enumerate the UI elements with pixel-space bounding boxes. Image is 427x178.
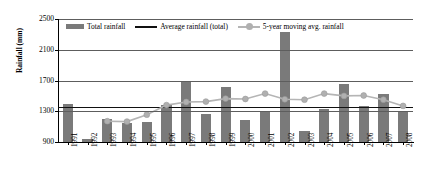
y-axis-tick — [55, 81, 59, 82]
x-axis-tick-label-1996: 1996 — [169, 133, 177, 147]
moving-average-marker — [144, 112, 150, 118]
y-axis-tick — [55, 142, 59, 143]
moving-average-marker — [341, 93, 347, 99]
moving-average-marker — [124, 119, 130, 125]
legend-label-moving-average: 5-year moving avg. rainfall — [263, 22, 344, 31]
marker-line-swatch-icon — [238, 26, 260, 28]
x-axis-tick-label-2008: 2008 — [406, 133, 414, 147]
x-axis-tick — [403, 142, 404, 145]
x-axis-tick-label-2006: 2006 — [367, 133, 375, 147]
moving-average-marker — [203, 99, 209, 105]
legend-label-total-rainfall: Total rainfall — [87, 22, 125, 31]
x-axis-tick — [186, 142, 187, 145]
legend-item-total-rainfall: Total rainfall — [66, 22, 125, 31]
moving-average-marker — [381, 97, 387, 103]
x-axis-tick-label-1999: 1999 — [229, 133, 237, 147]
moving-average-marker — [321, 91, 327, 97]
moving-average-marker — [302, 97, 308, 103]
x-axis-tick — [166, 142, 167, 145]
rainfall-chart: Rainfall (mm) Total rainfall Average rai… — [0, 0, 427, 178]
y-axis-tick — [55, 111, 59, 112]
x-axis-tick — [305, 142, 306, 145]
y-axis-tick-label: 1700 — [28, 77, 54, 85]
bar-swatch-icon — [66, 24, 84, 29]
moving-average-marker — [361, 93, 367, 99]
x-axis-tick-label-2005: 2005 — [347, 133, 355, 147]
x-axis-tick — [265, 142, 266, 145]
x-axis-tick — [383, 142, 384, 145]
line-swatch-icon — [135, 26, 157, 28]
gridline — [58, 50, 413, 51]
x-axis-tick — [68, 142, 69, 145]
y-axis-tick-label: 2500 — [28, 15, 54, 23]
x-axis-tick-label-1998: 1998 — [209, 133, 217, 147]
x-axis-tick — [364, 142, 365, 145]
x-axis-tick — [147, 142, 148, 145]
chart-legend: Total rainfall Average rainfall (total) … — [60, 20, 411, 33]
x-axis-tick-label-1994: 1994 — [130, 133, 138, 147]
y-axis-tick-label: 1300 — [28, 107, 54, 115]
x-axis-tick-label-1997: 1997 — [189, 133, 197, 147]
x-axis-tick — [344, 142, 345, 145]
plot-area — [58, 19, 413, 142]
y-axis-tick-label: 2100 — [28, 46, 54, 54]
x-axis-tick — [206, 142, 207, 145]
x-axis-tick-label-1995: 1995 — [150, 133, 158, 147]
y-axis-tick — [55, 50, 59, 51]
x-axis-tick-label-1993: 1993 — [110, 133, 118, 147]
gridline — [58, 81, 413, 82]
x-axis-tick — [88, 142, 89, 145]
x-axis-tick — [226, 142, 227, 145]
moving-average-marker — [164, 102, 170, 108]
moving-average-marker — [104, 118, 110, 124]
x-axis-tick-label-2001: 2001 — [268, 133, 276, 147]
x-axis-tick — [127, 142, 128, 145]
moving-average-marker — [243, 96, 249, 102]
moving-average-marker — [223, 96, 229, 102]
x-axis-tick-label-1991: 1991 — [71, 133, 79, 147]
y-axis-title: Rainfall (mm) — [15, 6, 24, 96]
x-axis-tick-label-2004: 2004 — [327, 133, 335, 147]
moving-average-marker — [400, 103, 406, 109]
moving-average-line — [107, 94, 403, 122]
x-axis-tick — [285, 142, 286, 145]
moving-average-marker — [262, 91, 268, 97]
y-axis-tick — [55, 19, 59, 20]
x-axis-tick — [324, 142, 325, 145]
gridline — [58, 111, 413, 112]
legend-label-average-rainfall: Average rainfall (total) — [160, 22, 228, 31]
x-axis-tick — [245, 142, 246, 145]
x-axis-tick — [107, 142, 108, 145]
x-axis-tick-label-1992: 1992 — [91, 133, 99, 147]
x-axis-tick-label-2002: 2002 — [288, 133, 296, 147]
legend-item-average-rainfall: Average rainfall (total) — [135, 22, 228, 31]
x-axis-tick-label-2000: 2000 — [248, 133, 256, 147]
y-axis-tick-label: 900 — [28, 138, 54, 146]
moving-average-marker — [282, 96, 288, 102]
legend-item-moving-average: 5-year moving avg. rainfall — [238, 22, 344, 31]
moving-average-marker — [183, 99, 189, 105]
x-axis-tick-label-2007: 2007 — [386, 133, 394, 147]
x-axis-tick-label-2003: 2003 — [308, 133, 316, 147]
